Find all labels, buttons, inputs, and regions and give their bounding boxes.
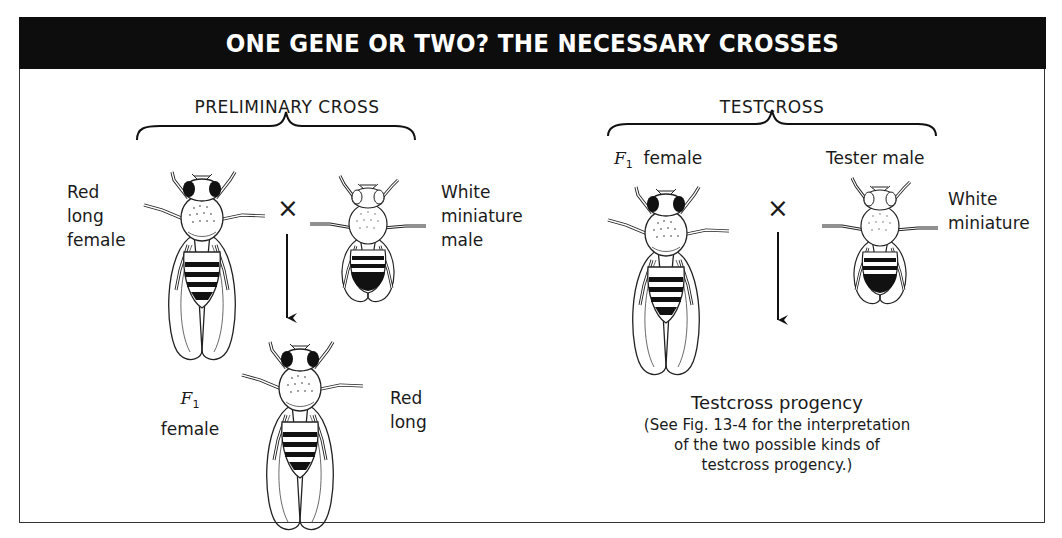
label-line: Red [390, 386, 427, 410]
label-line: miniature [441, 204, 523, 228]
generation-letter: F [181, 388, 193, 408]
tester-phenotype-label: White miniature [948, 187, 1030, 235]
red-long-female-fly [144, 172, 265, 359]
label-line: White [441, 180, 523, 204]
f1-female-fly [242, 342, 363, 529]
testcross-progeny: Testcross progency (See Fig. 13-4 for th… [644, 391, 910, 475]
label-line: long [67, 204, 126, 228]
progeny-note-line: (See Fig. 13-4 for the interpretation [644, 415, 910, 435]
female-phenotype-label: Red long female [67, 180, 126, 252]
label-line: male [441, 228, 523, 252]
generation-subscript: 1 [192, 398, 199, 411]
testcross-title: TESTCROSS [720, 97, 824, 117]
testcross-female-label: F1 female [614, 146, 702, 177]
white-miniature-male-fly [310, 176, 426, 302]
tester-male-label: Tester male [826, 146, 925, 170]
progeny-title: Testcross progency [644, 391, 910, 415]
cross-symbol: × [277, 196, 299, 220]
label-line: female [67, 228, 126, 252]
male-phenotype-label: White miniature male [441, 180, 523, 252]
progeny-note-line: of the two possible kinds of [644, 435, 910, 455]
sex-label: female [644, 148, 703, 168]
generation-letter: F [614, 148, 626, 168]
label-line: long [390, 410, 427, 434]
f1-generation: F1 [161, 386, 220, 417]
label-line: Red [67, 180, 126, 204]
preliminary-cross-title: PRELIMINARY CROSS [195, 97, 380, 117]
sex-label: female [161, 417, 220, 441]
testcross-cross-symbol: × [767, 196, 789, 220]
f1-phenotype-label: Red long [390, 386, 427, 434]
label-line: White [948, 187, 1030, 211]
testcross-f1-female-fly [608, 187, 729, 374]
label-line: miniature [948, 211, 1030, 235]
f1-female-label: F1 female [161, 386, 220, 441]
progeny-note-line: testcross progency.) [644, 455, 910, 475]
tester-male-fly [822, 178, 938, 304]
generation-subscript: 1 [626, 158, 633, 171]
